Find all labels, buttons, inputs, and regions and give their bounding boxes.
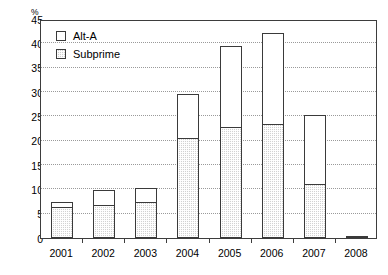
legend-item-subprime: Subprime xyxy=(56,45,120,63)
x-tick-mark-5 xyxy=(251,239,252,243)
bar-segment-subprime-2008 xyxy=(346,236,368,238)
bar-segment-alt-a-2001 xyxy=(51,202,73,208)
legend-label-subprime: Subprime xyxy=(73,49,120,60)
x-tick-label-2003: 2003 xyxy=(122,247,168,259)
legend-swatch-subprime-icon xyxy=(56,49,66,59)
bar-segment-subprime-2007 xyxy=(304,184,326,239)
legend-label-alt-a: Alt-A xyxy=(73,31,97,42)
x-tick-label-2001: 2001 xyxy=(38,247,84,259)
bar-segment-alt-a-2006 xyxy=(262,33,284,125)
bar-segment-subprime-2006 xyxy=(262,124,284,238)
x-tick-label-2004: 2004 xyxy=(164,247,210,259)
bar-group-2005 xyxy=(220,19,242,238)
bar-segment-alt-a-2004 xyxy=(177,94,199,139)
x-tick-mark-1 xyxy=(82,239,83,243)
x-tick-label-2006: 2006 xyxy=(249,247,295,259)
x-tick-mark-3 xyxy=(166,239,167,243)
bar-group-2004 xyxy=(177,19,199,238)
bar-segment-subprime-2005 xyxy=(220,127,242,238)
bar-segment-subprime-2001 xyxy=(51,206,73,238)
x-tick-mark-2 xyxy=(124,239,125,243)
bar-group-2003 xyxy=(135,19,157,238)
bar-segment-alt-a-2002 xyxy=(93,190,115,206)
legend-swatch-alt-a-icon xyxy=(56,31,66,41)
x-tick-label-2007: 2007 xyxy=(291,247,337,259)
bar-segment-alt-a-2003 xyxy=(135,188,157,202)
x-tick-mark-4 xyxy=(209,239,210,243)
bar-group-2006 xyxy=(262,19,284,238)
bar-group-2007 xyxy=(304,19,326,238)
legend-item-alt-a: Alt-A xyxy=(56,27,120,45)
bar-segment-alt-a-2007 xyxy=(304,115,326,185)
bar-segment-alt-a-2005 xyxy=(220,46,242,128)
x-tick-label-2005: 2005 xyxy=(207,247,253,259)
x-tick-label-2008: 2008 xyxy=(333,247,379,259)
bar-group-2008 xyxy=(346,19,368,238)
bar-segment-subprime-2002 xyxy=(93,204,115,238)
x-tick-mark-6 xyxy=(293,239,294,243)
bar-segment-subprime-2003 xyxy=(135,202,157,239)
x-tick-mark-7 xyxy=(335,239,336,243)
stacked-bar-chart: % 051015202530354045 2001200220032004200… xyxy=(0,0,388,275)
chart-legend: Alt-A Subprime xyxy=(56,27,120,63)
x-tick-label-2002: 2002 xyxy=(80,247,126,259)
bar-segment-subprime-2004 xyxy=(177,138,199,238)
